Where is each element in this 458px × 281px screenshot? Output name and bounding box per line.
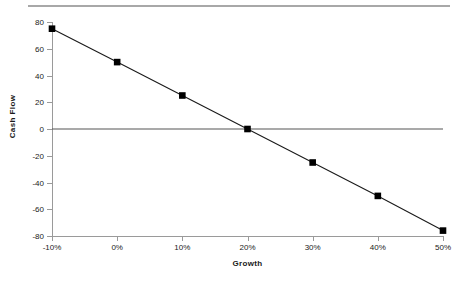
data-point-marker — [440, 227, 447, 234]
series-graphics — [0, 0, 458, 281]
data-point-marker — [49, 25, 56, 32]
data-point-marker — [375, 193, 382, 200]
data-point-marker — [114, 59, 121, 66]
cash-flow-growth-chart: 80 60 40 20 0 -20 -40 -60 -80 -10% 0% 10… — [0, 0, 458, 281]
data-point-marker — [309, 159, 316, 166]
data-point-marker — [179, 92, 186, 99]
y-axis-title: Cash Flow — [8, 77, 17, 157]
data-point-marker — [244, 126, 251, 133]
x-axis-title: Growth — [52, 259, 443, 268]
